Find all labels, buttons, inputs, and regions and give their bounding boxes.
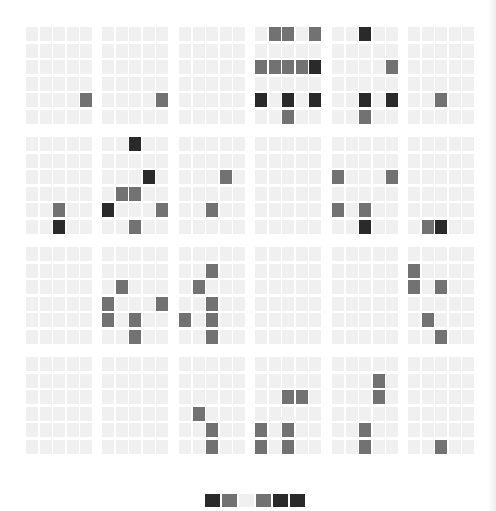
cell-light xyxy=(233,27,245,41)
cell-light xyxy=(116,374,128,388)
cell-light xyxy=(309,77,321,91)
cell-light xyxy=(359,264,371,278)
cell-light xyxy=(462,297,474,311)
cell-light xyxy=(179,77,191,91)
cell-light xyxy=(269,77,281,91)
cell-gray xyxy=(220,170,232,184)
cell-light xyxy=(282,247,294,261)
cell-light xyxy=(462,313,474,327)
cell-light xyxy=(296,154,308,168)
cell-light xyxy=(282,330,294,344)
cell-gray xyxy=(282,60,294,74)
cell-light xyxy=(359,247,371,261)
cell-light xyxy=(129,247,141,261)
cell-light xyxy=(296,297,308,311)
cell-light xyxy=(193,297,205,311)
cell-light xyxy=(67,44,79,58)
cell-light xyxy=(408,297,420,311)
cell-light xyxy=(296,407,308,421)
pattern-block xyxy=(179,247,246,345)
cell-light xyxy=(346,374,358,388)
cell-light xyxy=(462,423,474,437)
cell-light xyxy=(282,77,294,91)
cell-gray xyxy=(206,440,218,454)
cell-light xyxy=(269,154,281,168)
cell-light xyxy=(206,280,218,294)
cell-light xyxy=(462,44,474,58)
cell-light xyxy=(156,313,168,327)
cell-dark xyxy=(435,220,447,234)
cell-gray xyxy=(373,390,385,404)
cell-light xyxy=(373,44,385,58)
cell-light xyxy=(346,297,358,311)
cell-light xyxy=(40,313,52,327)
cell-gray xyxy=(422,220,434,234)
cell-light xyxy=(332,440,344,454)
cell-light xyxy=(220,137,232,151)
cell-light xyxy=(80,44,92,58)
cell-gray xyxy=(179,313,191,327)
cell-light xyxy=(179,44,191,58)
cell-light xyxy=(26,390,38,404)
cell-dark xyxy=(282,93,294,107)
cell-light xyxy=(408,44,420,58)
cell-light xyxy=(255,170,267,184)
cell-light xyxy=(40,280,52,294)
cell-light xyxy=(116,297,128,311)
cell-light xyxy=(422,203,434,217)
cell-light xyxy=(269,110,281,124)
cell-light xyxy=(255,390,267,404)
cell-light xyxy=(116,93,128,107)
cell-light xyxy=(116,330,128,344)
cell-light xyxy=(129,390,141,404)
cell-light xyxy=(80,313,92,327)
cell-light xyxy=(296,77,308,91)
cell-light xyxy=(220,423,232,437)
cell-light xyxy=(129,423,141,437)
cell-light xyxy=(53,313,65,327)
cell-light xyxy=(435,27,447,41)
cell-gray xyxy=(129,187,141,201)
cell-light xyxy=(449,170,461,184)
cell-light xyxy=(435,137,447,151)
cell-light xyxy=(422,137,434,151)
cell-light xyxy=(143,330,155,344)
cell-light xyxy=(156,44,168,58)
cell-light xyxy=(346,313,358,327)
cell-light xyxy=(67,407,79,421)
cell-light xyxy=(179,247,191,261)
cell-light xyxy=(179,264,191,278)
cell-light xyxy=(255,297,267,311)
cell-light xyxy=(282,264,294,278)
cell-light xyxy=(435,110,447,124)
cell-light xyxy=(386,220,398,234)
cell-light xyxy=(309,297,321,311)
cell-light xyxy=(156,220,168,234)
cell-light xyxy=(40,423,52,437)
cell-light xyxy=(462,264,474,278)
cell-light xyxy=(179,60,191,74)
cell-light xyxy=(269,280,281,294)
cell-light xyxy=(449,280,461,294)
cell-light xyxy=(156,440,168,454)
cell-light xyxy=(462,27,474,41)
cell-light xyxy=(67,170,79,184)
cell-light xyxy=(233,44,245,58)
cell-light xyxy=(359,60,371,74)
cell-light xyxy=(102,187,114,201)
pattern-block xyxy=(179,137,246,235)
cell-light xyxy=(193,220,205,234)
cell-light xyxy=(255,264,267,278)
cell-light xyxy=(435,60,447,74)
cell-gray xyxy=(386,60,398,74)
cell-light xyxy=(53,407,65,421)
cell-light xyxy=(179,330,191,344)
cell-light xyxy=(269,187,281,201)
cell-gray xyxy=(102,313,114,327)
cell-gray xyxy=(116,280,128,294)
cell-light xyxy=(129,170,141,184)
cell-dark xyxy=(359,220,371,234)
cell-light xyxy=(233,154,245,168)
cell-light xyxy=(67,220,79,234)
cell-gray xyxy=(359,440,371,454)
